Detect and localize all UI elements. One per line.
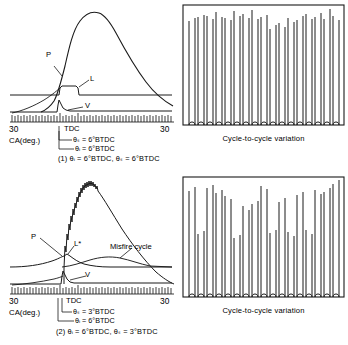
panel-2-caption: (2) θᵢ = 6°BTDC, θₛ = 3°BTDC (56, 327, 158, 336)
pressure-label: P (31, 232, 36, 241)
theta-s-annotation: θₛ = 3°BTDC (73, 307, 115, 316)
voltage-curve (10, 271, 172, 284)
luminosity-label: L (90, 74, 94, 83)
luminosity-label: L* (74, 239, 81, 248)
pressure-curve (41, 12, 173, 112)
axis-tick-right: 30 (160, 296, 169, 306)
panel-1: P L V 30 30 CA(deg.) TDC θₛ = 6°BTDC θᵢ … (0, 0, 348, 172)
voltage-label: V (85, 270, 90, 279)
axis-tick-left: 30 (9, 124, 18, 134)
theta-i-annotation: θᵢ = 6°BTDC (75, 316, 115, 325)
panel-1-ccv-caption: Cycle-to-cycle variation (182, 134, 345, 143)
l-leader (79, 80, 89, 87)
panel-2-ccv-plot (182, 176, 345, 304)
luminosity-curve (10, 86, 172, 95)
panel-1-caption: (1) θᵢ = 6°BTDC, θₛ = 6°BTDC (58, 154, 160, 163)
theta-i-annotation: θᵢ = 6°BTDC (75, 144, 115, 153)
panel-1-ccv-plot (182, 4, 345, 132)
panel-2: P L* V Misfire cycle 30 30 CA(deg.) TDC … (0, 172, 348, 345)
v-leader (70, 276, 86, 280)
crank-angle-marker-trace (10, 113, 174, 122)
panel-1-trace-plot: P L V 30 30 CA(deg.) TDC θₛ = 6°BTDC θᵢ … (0, 0, 180, 150)
misfire-cycle-label: Misfire cycle (110, 242, 152, 251)
tdc-label: TDC (66, 296, 82, 305)
voltage-curve (10, 100, 172, 112)
p-leader (40, 238, 62, 256)
ccv-spikes (189, 180, 339, 297)
axis-tick-left: 30 (9, 296, 18, 306)
axis-label-ca: CA(deg.) (9, 308, 40, 317)
panel-2-trace-plot: P L* V Misfire cycle 30 30 CA(deg.) TDC … (0, 172, 180, 322)
axis-label-ca: CA(deg.) (9, 136, 40, 145)
crank-angle-marker-trace (10, 285, 174, 294)
p-leader (54, 66, 62, 76)
panel-1-ccv-svg (182, 4, 345, 132)
theta-s-annotation: θₛ = 6°BTDC (73, 135, 115, 144)
pressure-curve (64, 181, 174, 284)
tdc-label: TDC (64, 124, 80, 133)
pressure-label: P (46, 50, 51, 59)
panel-2-ccv-svg (182, 176, 345, 304)
panel-2-ccv-caption: Cycle-to-cycle variation (182, 306, 345, 315)
voltage-label: V (85, 101, 90, 110)
combustion-figure: P L V 30 30 CA(deg.) TDC θₛ = 6°BTDC θᵢ … (0, 0, 348, 345)
v-leader (68, 107, 83, 110)
axis-tick-right: 30 (160, 124, 169, 134)
ccv-spikes (189, 9, 339, 125)
panel-2-traces-svg (0, 172, 180, 322)
